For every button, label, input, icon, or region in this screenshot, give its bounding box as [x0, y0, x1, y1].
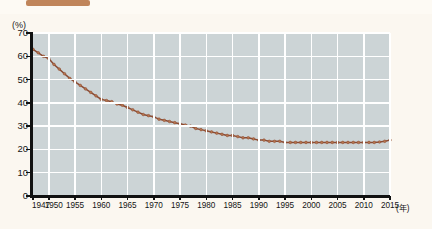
line-chart: (%) 706050403020100 19471950195519601965…: [0, 14, 432, 229]
series-marker: [137, 111, 140, 114]
y-axis-tick-label: 30: [0, 121, 28, 130]
series-marker: [142, 113, 145, 116]
y-axis-tick: [26, 79, 31, 81]
gridline-vertical: [363, 33, 365, 196]
series-marker: [200, 128, 203, 131]
y-axis-labels: 706050403020100: [0, 14, 28, 229]
series-marker: [273, 140, 276, 143]
gridline-vertical: [74, 33, 76, 196]
series-marker: [247, 136, 250, 139]
gridline-vertical: [153, 33, 155, 196]
series-marker: [326, 141, 329, 144]
series-marker: [226, 134, 229, 137]
x-axis-tick-label: 1960: [92, 201, 110, 210]
x-axis-tick: [179, 196, 181, 200]
y-axis-tick: [26, 32, 31, 34]
y-axis-tick: [26, 149, 31, 151]
x-axis-tick: [311, 196, 313, 200]
series-marker: [383, 140, 386, 143]
series-marker: [131, 108, 134, 111]
series-marker: [352, 141, 355, 144]
series-marker: [289, 141, 292, 144]
x-axis-tick: [389, 196, 391, 200]
series-marker: [63, 72, 66, 75]
gridline-vertical: [389, 33, 391, 196]
x-axis-tick-label: 1965: [118, 201, 136, 210]
x-axis-tick-label: 2000: [302, 201, 320, 210]
page-header-strip: [0, 0, 432, 14]
series-marker: [347, 141, 350, 144]
y-axis-tick-label: 20: [0, 144, 28, 153]
series-marker: [368, 141, 371, 144]
x-axis-tick-label: 2005: [328, 201, 346, 210]
series-marker: [242, 136, 245, 139]
series-marker: [215, 132, 218, 135]
y-axis-tick-label: 60: [0, 51, 28, 60]
series-marker: [236, 135, 239, 138]
plot-area: [33, 33, 390, 196]
y-axis-tick-label: 50: [0, 75, 28, 84]
x-axis-tick: [337, 196, 339, 200]
y-axis-tick: [26, 172, 31, 174]
y-axis-tick-label: 40: [0, 98, 28, 107]
series-marker: [263, 139, 266, 142]
y-axis-tick-label: 0: [0, 191, 28, 200]
series-marker: [163, 119, 166, 122]
y-axis-tick: [26, 195, 31, 197]
series-marker: [373, 141, 376, 144]
gridline-vertical: [101, 33, 103, 196]
x-axis-tick-label: 1970: [145, 201, 163, 210]
series-marker: [173, 121, 176, 124]
series-marker: [357, 141, 360, 144]
series-marker: [252, 138, 255, 141]
x-axis-tick: [127, 196, 129, 200]
series-marker: [168, 120, 171, 123]
series-marker: [210, 131, 213, 134]
gridline-vertical: [337, 33, 339, 196]
y-axis-tick: [26, 102, 31, 104]
x-axis-tick-label: 1990: [250, 201, 268, 210]
gridline-vertical: [127, 33, 129, 196]
series-marker: [221, 133, 224, 136]
x-axis-tick-label: 1975: [171, 201, 189, 210]
series-marker: [378, 141, 381, 144]
x-axis-tick-label: 1955: [66, 201, 84, 210]
series-marker: [268, 140, 271, 143]
x-axis-tick: [363, 196, 365, 200]
series-marker: [58, 68, 61, 71]
series-marker: [147, 114, 150, 117]
series-marker: [158, 118, 161, 121]
series-marker: [37, 51, 40, 54]
gridline-vertical: [284, 33, 286, 196]
x-axis-tick: [206, 196, 208, 200]
gridline-vertical: [48, 33, 50, 196]
series-marker: [278, 140, 281, 143]
x-axis-tick: [101, 196, 103, 200]
series-marker: [53, 63, 56, 66]
x-axis-tick: [258, 196, 260, 200]
gridline-vertical: [232, 33, 234, 196]
x-axis-unit-label: (年): [396, 201, 409, 213]
series-marker: [341, 141, 344, 144]
header-badge: [26, 0, 90, 6]
series-marker: [79, 84, 82, 87]
x-axis-tick-label: 1985: [223, 201, 241, 210]
x-axis-tick: [153, 196, 155, 200]
x-axis-tick: [74, 196, 76, 200]
x-axis-tick-label: 1995: [276, 201, 294, 210]
y-axis-tick: [26, 125, 31, 127]
gridline-vertical: [206, 33, 208, 196]
series-marker: [194, 127, 197, 130]
y-axis-tick-label: 70: [0, 28, 28, 37]
gridline-vertical: [311, 33, 313, 196]
series-marker: [95, 95, 98, 98]
x-axis-tick-label: 1980: [197, 201, 215, 210]
x-axis-tick-label: 2010: [355, 201, 373, 210]
series-marker: [299, 141, 302, 144]
x-axis-tick: [232, 196, 234, 200]
x-axis-tick: [32, 196, 34, 200]
y-axis-tick: [26, 56, 31, 58]
series-marker: [305, 141, 308, 144]
x-axis-tick-label: 1950: [45, 201, 63, 210]
series-marker: [84, 88, 87, 91]
